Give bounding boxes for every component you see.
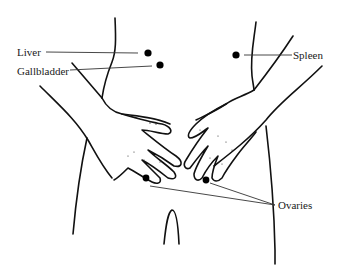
torso-right-outline [251, 22, 256, 90]
ovaries-leader-right [210, 183, 275, 205]
left-forearm [40, 86, 112, 178]
ovary-left-marker [143, 175, 150, 182]
right-hip-outline [266, 126, 275, 264]
anatomy-figure: Liver Gallbladder Spleen Ovaries [0, 0, 338, 270]
liver-leader [46, 52, 138, 53]
left-forearm-inner [102, 98, 170, 124]
right-hand [184, 104, 256, 181]
ovaries-leader-left [150, 186, 275, 205]
left-hand [114, 114, 181, 183]
label-liver: Liver [17, 46, 41, 58]
label-spleen: Spleen [293, 49, 323, 61]
right-waist-line [254, 36, 293, 90]
label-ovaries: Ovaries [278, 199, 312, 211]
ovary-right-marker [203, 177, 210, 184]
spleen-marker [232, 51, 239, 58]
liver-marker [144, 49, 151, 56]
left-hip-outline [73, 138, 87, 234]
groin-outline [164, 210, 179, 244]
gallbladder-marker [156, 61, 163, 68]
torso-illustration [0, 0, 338, 270]
torso-left-outline [102, 18, 116, 98]
label-gallbladder: Gallbladder [17, 65, 69, 77]
